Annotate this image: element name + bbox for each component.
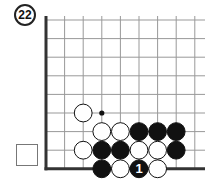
black-stone[interactable] [149,123,167,141]
black-stone[interactable] [93,160,111,178]
white-stone[interactable] [74,104,92,122]
white-stone[interactable] [149,141,167,159]
white-stone[interactable] [130,141,148,159]
white-stone[interactable] [112,123,130,141]
white-stone[interactable] [112,160,130,178]
black-stone[interactable] [167,123,185,141]
point-marker-dot [99,110,104,115]
black-stone[interactable] [130,123,148,141]
move-number-label: 1 [135,161,142,176]
go-board: 1 [0,0,211,181]
white-stone[interactable] [74,141,92,159]
black-stone[interactable] [93,141,111,159]
black-stone[interactable] [167,141,185,159]
white-stone[interactable] [93,123,111,141]
white-stone[interactable] [149,160,167,178]
black-stone[interactable] [112,141,130,159]
